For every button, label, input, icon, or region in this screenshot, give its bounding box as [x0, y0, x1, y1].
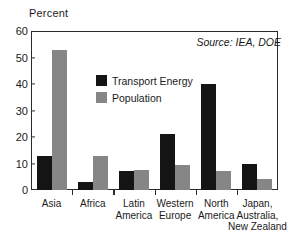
legend-label-population: Population: [112, 92, 162, 104]
bar: [216, 171, 231, 190]
bar: [134, 170, 149, 190]
y-axis-tick-mark: [31, 110, 35, 111]
legend-item-transport-energy: Transport Energy: [96, 73, 193, 88]
x-axis-tick-mark: [196, 190, 197, 195]
x-axis-category-label: Japan, Australia, New Zealand: [226, 198, 288, 233]
bar: [242, 164, 257, 191]
bar: [37, 156, 52, 190]
bar: [52, 50, 67, 190]
y-axis-tick-mark: [31, 57, 35, 58]
legend-item-population: Population: [96, 90, 193, 105]
y-axis-tick-mark: [31, 163, 35, 164]
bar: [93, 156, 108, 190]
x-axis-tick-mark: [72, 190, 73, 195]
legend-swatch-icon-transport-energy: [96, 75, 107, 86]
bar: [201, 84, 216, 190]
bar: [78, 182, 93, 190]
bar: [119, 171, 134, 190]
x-axis-tick-mark: [155, 190, 156, 195]
legend-label-transport-energy: Transport Energy: [112, 75, 193, 87]
x-axis-tick-mark: [237, 190, 238, 195]
bar: [175, 165, 190, 190]
legend-swatch-icon-population: [96, 92, 107, 103]
x-axis-tick-mark: [113, 190, 114, 195]
source-note: Source: IEA, DOE: [196, 36, 281, 48]
chart-figure: Percent 0102030405060 Transport Energy P…: [0, 0, 289, 233]
bar: [257, 179, 272, 190]
chart-legend: Transport Energy Population: [96, 73, 193, 107]
y-axis-tick-mark: [31, 136, 35, 137]
y-axis-tick-mark: [31, 83, 35, 84]
bar: [160, 134, 175, 190]
